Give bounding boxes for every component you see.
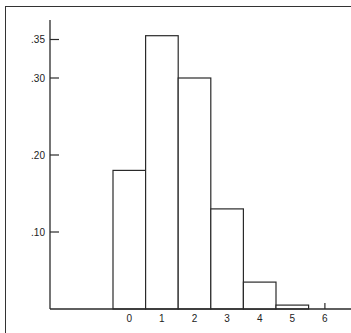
- y-tick-label: .10: [31, 227, 45, 238]
- bar-0: [113, 170, 146, 309]
- x-tick-label: 1: [159, 313, 165, 324]
- bar-4: [243, 282, 276, 309]
- x-tick-label: 6: [322, 313, 328, 324]
- y-tick-label: .30: [31, 73, 45, 84]
- y-tick-label: .20: [31, 150, 45, 161]
- bars-group: [113, 36, 309, 309]
- y-tick-label: .35: [31, 34, 45, 45]
- x-tick-label: 0: [127, 313, 133, 324]
- bar-2: [178, 78, 211, 309]
- x-tick-label: 4: [257, 313, 263, 324]
- x-tick-label: 5: [290, 313, 296, 324]
- x-tick-label: 3: [224, 313, 230, 324]
- bar-1: [146, 36, 179, 309]
- bar-3: [211, 209, 244, 309]
- y-ticks-group: .10.20.30.35: [31, 34, 59, 238]
- x-tick-label: 2: [192, 313, 198, 324]
- histogram-chart: .10.20.30.35 0123456: [0, 0, 351, 333]
